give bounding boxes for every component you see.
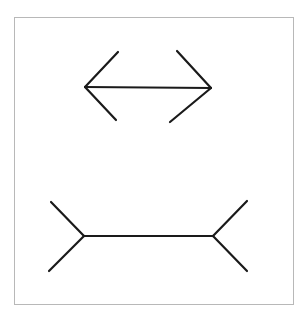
fin-line: [85, 52, 118, 87]
fin-line: [170, 88, 211, 122]
fin-line: [213, 236, 247, 271]
fin-line: [213, 201, 247, 236]
muller-lyer-illusion: [0, 0, 308, 319]
fin-line: [51, 202, 84, 236]
top-figure-arrowheads: [85, 51, 211, 122]
shaft-line: [85, 87, 211, 88]
fin-line: [85, 87, 116, 120]
fin-line: [177, 51, 211, 88]
bottom-figure-tails: [49, 201, 247, 271]
fin-line: [49, 236, 84, 271]
